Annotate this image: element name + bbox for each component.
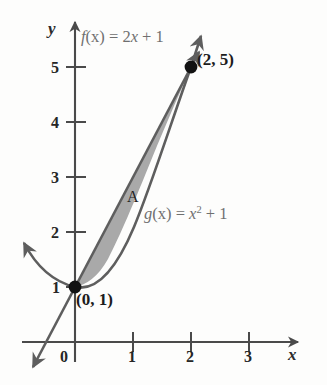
plot-canvas [0, 0, 327, 385]
function-label-f-arg: (x) [86, 27, 105, 46]
function-label-g-eq: = [172, 204, 190, 223]
function-label-g-arg: (x) [152, 204, 171, 223]
x-tick-label-3: 3 [244, 349, 252, 365]
function-label-f-var: x [131, 27, 138, 46]
y-tick-label-3: 3 [51, 170, 59, 186]
x-tick-label-2: 2 [186, 349, 194, 365]
y-tick-label-5: 5 [51, 60, 59, 76]
x-tick-label-1: 1 [128, 349, 136, 365]
function-label-g: g(x) = x2 + 1 [144, 206, 227, 223]
y-tick-label-2: 2 [51, 225, 59, 241]
function-label-f-tail: + 1 [138, 27, 164, 46]
function-label-f-eq: = 2 [105, 27, 131, 46]
graph-figure: y x 0 1 2 3 1 2 3 4 5 f(x) = 2x + 1 g(x)… [0, 0, 327, 385]
function-label-g-tail: + 1 [202, 204, 228, 223]
region-label-A: A [127, 189, 139, 205]
y-axis-label: y [48, 20, 56, 37]
point-label-0-1: (0, 1) [76, 291, 113, 308]
point-label-2-5: (2, 5) [197, 51, 234, 68]
x-tick-label-0: 0 [60, 349, 68, 365]
x-axis-label: x [288, 346, 297, 363]
function-label-g-name: g [144, 204, 152, 223]
point-marker-2-5 [185, 61, 198, 74]
y-tick-label-1: 1 [52, 280, 60, 296]
function-label-f: f(x) = 2x + 1 [81, 29, 164, 46]
y-tick-label-4: 4 [51, 115, 59, 131]
